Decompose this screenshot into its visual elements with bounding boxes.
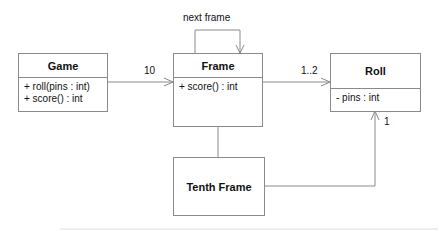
tenth-roll-association <box>264 111 375 186</box>
class-frame: Frame + score() : int <box>173 53 263 127</box>
multiplicity-1: 1 <box>384 116 390 127</box>
class-name: Tenth Frame <box>186 181 251 193</box>
member: - pins : int <box>336 92 420 104</box>
member: + roll(pins : int) <box>24 81 107 93</box>
class-members: + roll(pins : int) + score() : int <box>19 78 107 105</box>
next-frame-self-association <box>195 30 240 53</box>
class-name: Game <box>19 54 107 78</box>
class-game: Game + roll(pins : int) + score() : int <box>18 53 108 112</box>
class-name: Roll <box>331 54 420 89</box>
member: + score() : int <box>24 93 107 105</box>
class-members: + score() : int <box>174 78 262 93</box>
class-tenth-frame: Tenth Frame <box>173 157 265 216</box>
member: + score() : int <box>179 81 262 93</box>
multiplicity-10: 10 <box>144 65 155 76</box>
class-roll: Roll - pins : int <box>330 53 421 112</box>
class-members: - pins : int <box>331 89 420 104</box>
multiplicity-1-2: 1..2 <box>301 65 318 76</box>
class-name: Frame <box>174 54 262 78</box>
next-frame-label: next frame <box>183 12 230 23</box>
